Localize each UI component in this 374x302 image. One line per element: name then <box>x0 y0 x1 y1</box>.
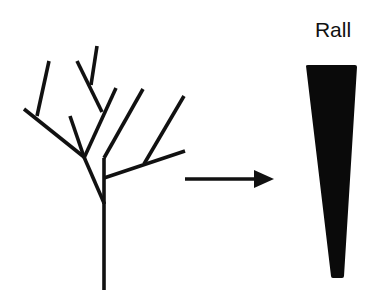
branch-left-junction <box>84 157 104 203</box>
arrow-head-icon <box>254 170 274 188</box>
branch-middle-top-twig <box>91 46 97 85</box>
branch-right-branch <box>104 151 185 178</box>
dendritic-tree <box>24 46 185 290</box>
branch-left-twig <box>37 61 49 116</box>
rall-label: Rall <box>305 18 361 42</box>
branch-middle-upper-branch <box>77 61 102 112</box>
diagram-canvas <box>0 0 374 302</box>
transform-arrow-icon <box>185 170 274 188</box>
rall-equivalent-cylinder-wedge <box>306 65 357 278</box>
